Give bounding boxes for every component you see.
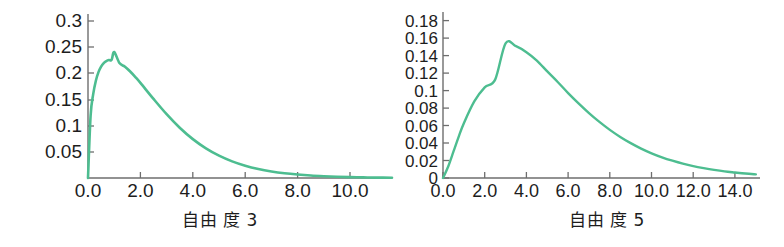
y-tick-labels-df5: 0 0.02 0.04 0.06 0.08 0.1 0.12 0.14 0.16…	[405, 12, 438, 188]
y-tick-label: 0.25	[45, 36, 82, 57]
x-tick-labels-df5: 0.0 2.0 4.0 6.0 8.0 10.0 12.0 14.0	[430, 181, 752, 200]
x-tick-label: 4.0	[514, 181, 539, 200]
y-tick-label: 0.18	[405, 12, 438, 31]
y-tick-label: 0.1	[414, 82, 438, 101]
y-tick-labels-df3: 0.05 0.1 0.15 0.2 0.25 0.3	[45, 10, 82, 162]
x-tick-label: 6.0	[232, 180, 258, 200]
y-tick-label: 0.12	[405, 64, 438, 83]
y-tick-label: 0.02	[405, 152, 438, 171]
chi-squared-curve-df3	[88, 52, 392, 178]
y-tick-label: 0.3	[56, 10, 82, 31]
x-tick-label: 4.0	[180, 180, 206, 200]
y-tick-label: 0.06	[405, 117, 438, 136]
chart-panel-df5: 0 0.02 0.04 0.06 0.08 0.1 0.12 0.14 0.16…	[396, 0, 784, 247]
x-tick-label: 2.0	[127, 180, 153, 200]
plot-area-df5: 0 0.02 0.04 0.06 0.08 0.1 0.12 0.14 0.16…	[396, 0, 784, 200]
panel-caption-df3: 自由 度 3	[0, 206, 400, 231]
x-tick-label: 0.0	[75, 180, 101, 200]
y-tick-label: 0.15	[45, 89, 82, 110]
x-tick-label: 14.0	[717, 181, 752, 200]
x-tick-labels-df3: 0.0 2.0 4.0 6.0 8.0 10.0	[75, 180, 369, 200]
x-tick-label: 2.0	[472, 181, 497, 200]
y-tick-label: 0.14	[405, 47, 438, 66]
x-tick-marks-df5	[443, 172, 735, 178]
x-tick-label: 8.0	[597, 181, 622, 200]
chi-squared-figure: 0.05 0.1 0.15 0.2 0.25 0.3 0.0 2.0 4.0	[0, 0, 784, 247]
chi-squared-curve-df5	[443, 41, 756, 178]
panel-caption-df5: 自由 度 5	[396, 206, 784, 231]
y-tick-label: 0.08	[405, 99, 438, 118]
y-tick-label: 0.2	[56, 62, 82, 83]
x-tick-label: 12.0	[676, 181, 711, 200]
x-tick-label: 10.0	[634, 181, 669, 200]
y-tick-label: 0.05	[45, 141, 82, 162]
x-tick-label: 10.0	[332, 180, 369, 200]
x-tick-label: 6.0	[556, 181, 581, 200]
x-tick-label: 8.0	[284, 180, 310, 200]
plot-area-df3: 0.05 0.1 0.15 0.2 0.25 0.3 0.0 2.0 4.0	[0, 0, 400, 200]
chart-panel-df3: 0.05 0.1 0.15 0.2 0.25 0.3 0.0 2.0 4.0	[0, 0, 400, 247]
y-tick-label: 0.1	[56, 115, 82, 136]
y-tick-label: 0.04	[405, 134, 438, 153]
y-tick-label: 0.16	[405, 29, 438, 48]
y-tick-marks-df5	[443, 21, 449, 178]
x-tick-label: 0.0	[430, 181, 455, 200]
